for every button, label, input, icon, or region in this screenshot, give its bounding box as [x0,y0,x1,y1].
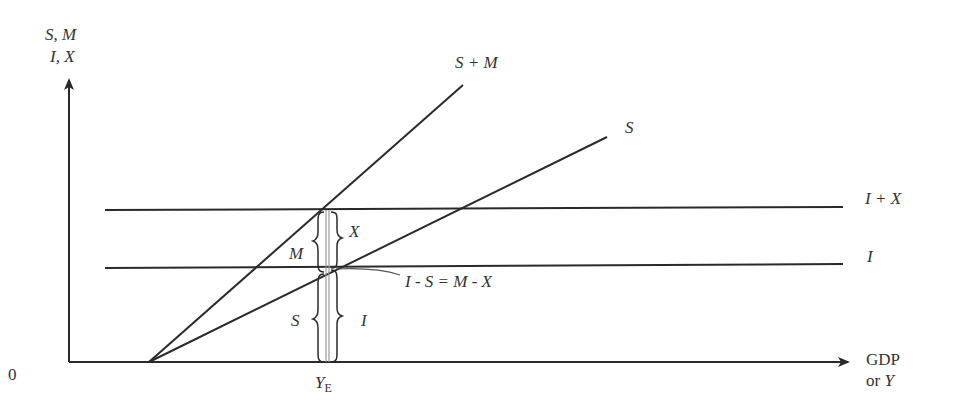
x-axis-label-line2: or Y [866,371,895,390]
i-line [105,264,843,268]
m-brace-label: M [288,244,304,263]
i-brace-label: I [360,311,368,330]
y-axis-label-line2: I, X [49,47,75,66]
balance-identity-annotation: I - S = M - X [404,272,493,291]
s-plus-m-line [149,85,463,362]
annotation-leader-line [336,269,400,275]
s-brace [313,274,324,362]
open-economy-equilibrium-diagram: S, M I, X 0 GDP or Y I + X I S + M S M X… [0,0,953,420]
equilibrium-output-label: YE [315,373,332,395]
i-brace [331,270,342,362]
equilibrium-label-subscript: E [324,381,331,395]
i-plus-x-label: I + X [864,189,902,208]
x-axis-label-var: Y [884,371,895,390]
s-plus-m-label: S + M [455,53,498,72]
x-axis-label-or: or [866,371,884,390]
y-axis-label-line1: S, M [45,25,77,44]
s-line [149,137,607,362]
x-brace [331,212,342,268]
s-brace-label: S [291,311,300,330]
x-brace-label: X [348,222,360,241]
i-label: I [866,247,874,266]
s-label: S [625,118,634,137]
m-brace [313,212,324,272]
x-axis-label-line1: GDP [866,350,900,369]
i-plus-x-line [105,207,843,210]
origin-label: 0 [8,365,17,384]
